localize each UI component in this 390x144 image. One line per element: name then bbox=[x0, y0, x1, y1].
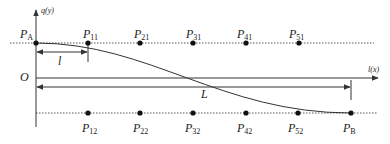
origin-label: O bbox=[20, 70, 29, 84]
long-span-label: L bbox=[200, 87, 208, 101]
label-pa: PA bbox=[19, 27, 33, 42]
point-p32 bbox=[190, 110, 195, 115]
label-p11: P11 bbox=[82, 27, 98, 42]
label-p31: P31 bbox=[185, 27, 201, 42]
vertical-axis-label: q(y) bbox=[41, 6, 54, 15]
point-pa bbox=[33, 40, 38, 45]
point-p52 bbox=[295, 110, 300, 115]
horizontal-axis-label: l(x) bbox=[368, 65, 379, 74]
point-p12 bbox=[85, 110, 90, 115]
label-p51: P51 bbox=[288, 27, 304, 42]
label-p32: P32 bbox=[184, 121, 200, 136]
label-p21: P21 bbox=[133, 27, 149, 42]
curve-geometry-diagram: q(y) l(x) O l L PA P11 P21 P31 P41 P51 P… bbox=[0, 0, 390, 144]
label-p12: P12 bbox=[81, 121, 97, 136]
point-pb bbox=[348, 110, 353, 115]
label-p42: P42 bbox=[236, 121, 252, 136]
label-p22: P22 bbox=[132, 121, 148, 136]
label-p41: P41 bbox=[236, 27, 252, 42]
label-p52: P52 bbox=[287, 121, 303, 136]
short-span-label: l bbox=[58, 54, 62, 68]
point-p42 bbox=[243, 110, 248, 115]
label-pb: PB bbox=[342, 121, 356, 136]
point-p22 bbox=[137, 110, 142, 115]
